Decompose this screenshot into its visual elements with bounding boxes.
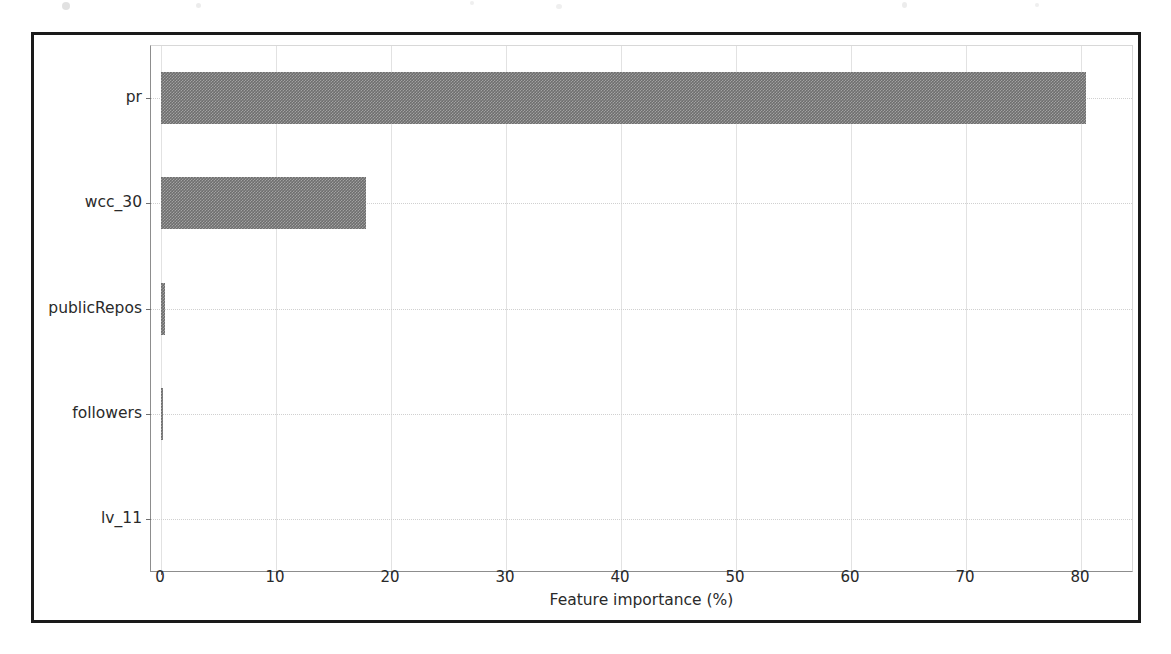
x-tick-label-40: 40 xyxy=(610,568,629,586)
bar-followers[interactable] xyxy=(161,388,163,440)
x-tick-label-10: 10 xyxy=(265,568,284,586)
scan-artifacts xyxy=(0,0,1171,14)
y-tick-label-pr: pr xyxy=(126,88,142,106)
y-tick-mark-lv11 xyxy=(146,519,151,520)
y-tick-mark-wcc30 xyxy=(146,203,151,204)
x-tick-label-80: 80 xyxy=(1070,568,1089,586)
x-tick-label-70: 70 xyxy=(955,568,974,586)
y-tick-label-publicrepos: publicRepos xyxy=(48,299,142,317)
bar-wcc_30[interactable] xyxy=(161,177,366,229)
y-tick-label-followers: followers xyxy=(72,404,142,422)
x-axis-title: Feature importance (%) xyxy=(150,591,1133,609)
y-tick-label-lv11: lv_11 xyxy=(101,509,142,527)
y-tick-mark-followers xyxy=(146,414,151,415)
x-tick-label-50: 50 xyxy=(725,568,744,586)
x-tick-label-20: 20 xyxy=(380,568,399,586)
x-tick-label-30: 30 xyxy=(495,568,514,586)
gridline-horizontal-followers xyxy=(151,414,1132,415)
plot-axes xyxy=(150,45,1133,572)
y-tick-label-wcc30: wcc_30 xyxy=(85,193,142,211)
gridline-horizontal-publicrepos xyxy=(151,309,1132,310)
y-axis-tick-labels: pr wcc_30 publicRepos followers lv_11 xyxy=(34,45,142,572)
y-tick-mark-publicrepos xyxy=(146,309,151,310)
bar-publicRepos[interactable] xyxy=(161,283,165,335)
plot-wrap: pr wcc_30 publicRepos followers lv_11 xyxy=(34,35,1144,626)
figure-frame: pr wcc_30 publicRepos followers lv_11 xyxy=(31,32,1141,623)
x-tick-label-0: 0 xyxy=(155,568,165,586)
x-tick-label-60: 60 xyxy=(840,568,859,586)
gridline-horizontal-lv11 xyxy=(151,519,1132,520)
y-tick-mark-pr xyxy=(146,98,151,99)
bar-pr[interactable] xyxy=(161,72,1086,124)
